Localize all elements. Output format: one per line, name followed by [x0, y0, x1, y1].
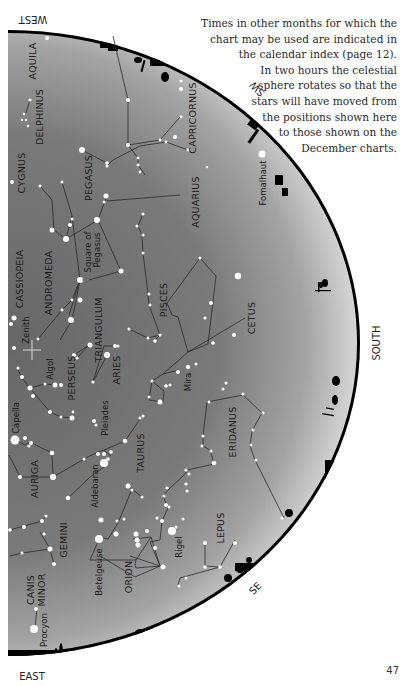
- label-cetus: CETUS: [246, 302, 257, 334]
- label-aries: ARIES: [111, 356, 122, 385]
- label-cygnus: CYGNUS: [16, 153, 27, 194]
- label-perseus: PERSEUS: [66, 356, 77, 401]
- label-delphinus: DELPHINUS: [34, 89, 45, 145]
- label-procyon: Procyon: [39, 613, 49, 647]
- label-orion: ORION: [123, 561, 134, 593]
- label-capella: Capella: [11, 402, 21, 434]
- caption-line: chart may be used are indicated in: [197, 32, 397, 48]
- label-pegasus: PEGASUS: [83, 155, 94, 201]
- label-aquila: AQUILA: [27, 42, 38, 79]
- caption-line: December charts.: [197, 141, 397, 157]
- label-fomalhaut: Fomalhaut: [258, 160, 268, 206]
- label-canis-minor-line2: MINOR: [36, 573, 47, 606]
- label-algol: Algol: [45, 358, 55, 379]
- label-canis-minor-line1: CANIS: [25, 575, 36, 605]
- caption-line: the positions shown here: [197, 110, 397, 126]
- caption-line: stars will have moved from: [197, 94, 397, 110]
- chart-caption: Times in other months for which the char…: [197, 16, 397, 156]
- caption-line: In two hours the celestial: [197, 63, 397, 79]
- caption-line: to those shown on the: [197, 125, 397, 141]
- label-lepus: LEPUS: [215, 512, 226, 543]
- direction-west: WEST: [18, 14, 48, 25]
- direction-east: EAST: [19, 671, 46, 682]
- label-andromeda: ANDROMEDA: [43, 250, 54, 315]
- direction-south: SOUTH: [371, 325, 382, 360]
- label-square-of-pegasus-line2: Pegasus: [92, 232, 102, 267]
- label-aldebaran: Aldebaran: [90, 464, 100, 508]
- label-betelgeuse: Betelgeuse: [94, 548, 104, 596]
- label-aquarius: AQUARIUS: [190, 176, 201, 227]
- label-taurus: TAURUS: [135, 433, 146, 473]
- label-pleiades: Pleiades: [100, 400, 110, 436]
- direction-southeast: SE: [247, 580, 264, 597]
- label-gemini: GEMINI: [58, 522, 69, 557]
- label-cassiopeia: CASSIOPEIA: [14, 249, 25, 308]
- label-eridanus: ERIDANUS: [227, 407, 238, 458]
- caption-line: Times in other months for which the: [197, 16, 397, 32]
- label-pisces: PISCES: [158, 283, 169, 317]
- label-rigel: Rigel: [174, 536, 184, 557]
- caption-line: sphere rotates so that the: [197, 78, 397, 94]
- caption-line: the calendar index (page 12).: [197, 47, 397, 63]
- label-mira: Mira: [183, 373, 193, 391]
- label-auriga: AURIGA: [29, 460, 40, 498]
- page-number: 47: [386, 665, 399, 676]
- label-triangulum: TRIANGULUM: [93, 297, 104, 363]
- label-zenith: Zenith: [21, 316, 31, 344]
